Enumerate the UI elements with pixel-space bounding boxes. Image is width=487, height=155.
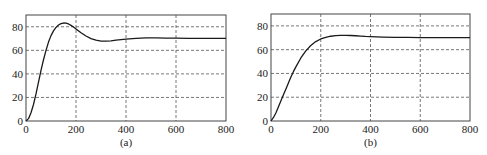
panel-caption: (a) (120, 136, 133, 149)
x-tick-label: 200 (68, 123, 85, 135)
grid-lines (271, 14, 470, 121)
x-tick-label: 200 (313, 123, 330, 135)
y-tick-labels: 020406080 (12, 21, 24, 127)
y-tick-label: 80 (257, 20, 269, 32)
x-tick-label: 0 (268, 123, 274, 135)
x-tick-labels: 0200400600800 (23, 123, 235, 135)
y-tick-label: 60 (12, 44, 24, 56)
y-tick-label: 40 (257, 67, 269, 79)
figure: 020406080 0200400600800 (a) 020406080 02… (0, 0, 487, 155)
x-tick-label: 400 (118, 123, 135, 135)
y-tick-label: 80 (12, 21, 24, 33)
y-tick-labels: 020406080 (257, 20, 269, 127)
x-tick-label: 800 (462, 123, 479, 135)
y-tick-label: 20 (257, 91, 269, 103)
x-tick-label: 0 (23, 123, 29, 135)
x-tick-label: 600 (412, 123, 429, 135)
x-tick-label: 600 (168, 123, 185, 135)
response-curve (271, 35, 470, 121)
panel-caption: (b) (364, 136, 377, 149)
y-tick-label: 60 (257, 44, 269, 56)
x-tick-label: 800 (218, 123, 235, 135)
grid-lines (26, 15, 226, 121)
y-tick-label: 20 (12, 91, 24, 103)
y-tick-label: 40 (12, 68, 24, 80)
panel-a: 020406080 0200400600800 (a) (12, 15, 235, 149)
panel-b: 020406080 0200400600800 (b) (257, 14, 479, 149)
x-tick-label: 400 (362, 123, 379, 135)
x-tick-labels: 0200400600800 (268, 123, 479, 135)
